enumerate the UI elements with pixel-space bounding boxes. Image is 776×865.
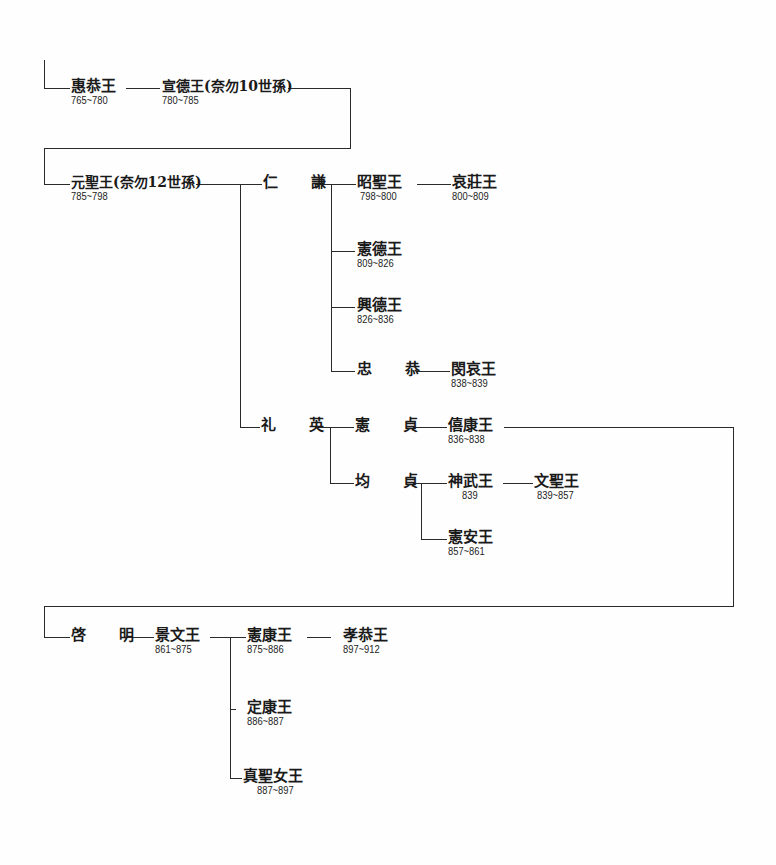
- node-heungdeok-wang: 興德王 826~836: [357, 297, 402, 325]
- king-name: 惠恭王: [71, 78, 116, 95]
- person-name: 啓 明: [71, 627, 148, 644]
- reign-years: 861~875: [155, 644, 193, 655]
- connector-line: [44, 606, 45, 638]
- node-chunggong: 忠 恭: [357, 361, 434, 378]
- connector-line: [44, 60, 45, 89]
- node-wonseong-wang: 元聖王(奈勿12世孫) 785~798: [71, 174, 202, 202]
- connector-line: [503, 483, 533, 484]
- person-name: 仁 謙: [263, 174, 340, 191]
- node-jinseong-yeowang: 真聖女王 887~897: [243, 768, 303, 796]
- connector-line: [230, 637, 231, 779]
- reign-years: 838~839: [451, 378, 489, 389]
- connector-line: [230, 709, 236, 710]
- reign-years: 800~809: [452, 191, 490, 202]
- connector-line: [331, 307, 355, 308]
- king-name: 憲康王: [247, 627, 292, 644]
- node-heondeok-wang: 憲德王 809~826: [357, 241, 402, 269]
- king-name: 神武王: [448, 473, 493, 490]
- connector-line: [44, 148, 45, 185]
- node-heongang-wang: 憲康王 875~886: [247, 627, 292, 655]
- node-heonan-wang: 憲安王 857~861: [448, 529, 493, 557]
- reign-years: 826~836: [357, 314, 395, 325]
- node-gyemyeong: 啓 明: [71, 627, 148, 644]
- node-gyunjeong: 均 貞: [355, 473, 432, 490]
- connector-line: [196, 184, 262, 185]
- king-name: 元聖王(奈勿12世孫): [71, 174, 202, 191]
- connector-line: [417, 184, 451, 185]
- connector-line: [44, 637, 70, 638]
- king-name: 僖康王: [448, 417, 493, 434]
- person-name: 均 貞: [355, 473, 432, 490]
- connector-line: [210, 637, 246, 638]
- king-name: 景文王: [155, 627, 200, 644]
- connector-line: [44, 88, 70, 89]
- king-name: 憲德王: [357, 241, 402, 258]
- reign-years: 780~785: [162, 95, 273, 106]
- node-yeyeong: 礼 英: [261, 417, 338, 434]
- king-name: 興德王: [357, 297, 402, 314]
- reign-years: 765~780: [71, 95, 109, 106]
- reign-years: 809~826: [357, 258, 395, 269]
- connector-line: [421, 483, 422, 540]
- connector-line: [44, 148, 351, 149]
- node-ingyeom: 仁 謙: [263, 174, 340, 191]
- connector-line: [350, 88, 351, 149]
- connector-line: [331, 184, 332, 372]
- king-name: 宣德王(奈勿10世孫): [162, 78, 293, 95]
- king-name: 昭聖王: [357, 174, 403, 191]
- person-name: 忠 恭: [357, 361, 434, 378]
- node-hyegong-wang: 惠恭王 765~780: [71, 78, 116, 106]
- connector-line: [331, 371, 355, 372]
- connector-line: [230, 778, 242, 779]
- connector-line: [44, 606, 734, 607]
- node-heonjeong: 憲 貞: [355, 417, 432, 434]
- connector-line: [504, 427, 734, 428]
- king-name: 憲安王: [448, 529, 493, 546]
- connector-line: [331, 251, 355, 252]
- reign-years: 857~861: [448, 546, 486, 557]
- node-seondeok-wang: 宣德王(奈勿10世孫) 780~785: [162, 78, 293, 106]
- node-aejang-wang: 哀莊王 800~809: [452, 174, 497, 202]
- connector-line: [330, 427, 331, 484]
- person-name: 憲 貞: [355, 417, 432, 434]
- king-name: 孝恭王: [343, 627, 388, 644]
- node-jeonggang-wang: 定康王 886~887: [247, 699, 292, 727]
- king-name: 閔哀王: [451, 361, 496, 378]
- connector-line: [240, 184, 241, 428]
- reign-years: 839: [462, 490, 488, 501]
- node-hyogong-wang: 孝恭王 897~912: [343, 627, 388, 655]
- connector-line: [733, 427, 734, 607]
- reign-years: 785~798: [71, 191, 182, 202]
- connector-line: [330, 483, 354, 484]
- person-name: 礼 英: [261, 417, 338, 434]
- connector-line: [44, 184, 70, 185]
- connector-line: [288, 88, 350, 89]
- reign-years: 897~912: [343, 644, 381, 655]
- reign-years: 798~800: [360, 191, 397, 202]
- node-huigang-wang: 僖康王 836~838: [448, 417, 493, 445]
- node-sinmu-wang: 神武王 839: [448, 473, 493, 501]
- king-name: 哀莊王: [452, 174, 497, 191]
- node-gyeongmun-wang: 景文王 861~875: [155, 627, 200, 655]
- node-munseong-wang: 文聖王 839~857: [534, 473, 580, 501]
- reign-years: 886~887: [247, 716, 285, 727]
- reign-years: 836~838: [448, 434, 486, 445]
- node-soseong-wang: 昭聖王 798~800: [357, 174, 403, 202]
- reign-years: 887~897: [257, 785, 296, 796]
- connector-line: [307, 637, 331, 638]
- connector-line: [240, 427, 260, 428]
- king-name: 文聖王: [534, 473, 580, 490]
- connector-line: [421, 539, 447, 540]
- reign-years: 875~886: [247, 644, 285, 655]
- king-name: 定康王: [247, 699, 292, 716]
- connector-line: [126, 88, 160, 89]
- node-minae-wang: 閔哀王 838~839: [451, 361, 496, 389]
- genealogy-diagram: 惠恭王 765~780 宣德王(奈勿10世孫) 780~785 元聖王(奈勿12…: [0, 0, 776, 865]
- reign-years: 839~857: [537, 490, 574, 501]
- king-name: 真聖女王: [243, 768, 303, 785]
